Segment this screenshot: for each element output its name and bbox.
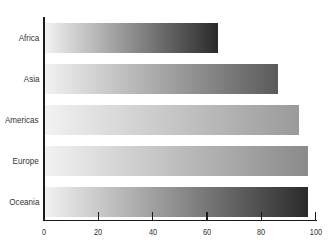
bar-oceania: [45, 187, 308, 217]
x-tick-mark: [152, 212, 154, 220]
horizontal-bar-chart: AfricaAsiaAmericasEuropeOceania 02040608…: [0, 0, 334, 250]
bar-europe: [45, 146, 308, 176]
category-label: Americas: [5, 105, 39, 135]
category-label: Europe: [13, 146, 39, 176]
x-tick-label: 100: [303, 227, 328, 237]
category-label: Africa: [18, 23, 39, 53]
x-tick-label: 80: [249, 227, 274, 237]
x-tick-label: 40: [140, 227, 165, 237]
bar-americas: [45, 105, 299, 135]
x-tick-mark: [206, 212, 208, 220]
bar-africa: [45, 23, 218, 53]
x-tick-mark: [261, 212, 263, 220]
bar-asia: [45, 64, 278, 94]
x-tick-mark: [98, 212, 100, 220]
x-tick-label: 60: [195, 227, 220, 237]
category-label: Asia: [23, 64, 39, 94]
x-tick-label: 0: [32, 227, 57, 237]
x-tick-mark: [315, 212, 317, 220]
x-axis-line: [43, 220, 317, 222]
category-label: Oceania: [9, 187, 39, 217]
x-tick-label: 20: [86, 227, 111, 237]
